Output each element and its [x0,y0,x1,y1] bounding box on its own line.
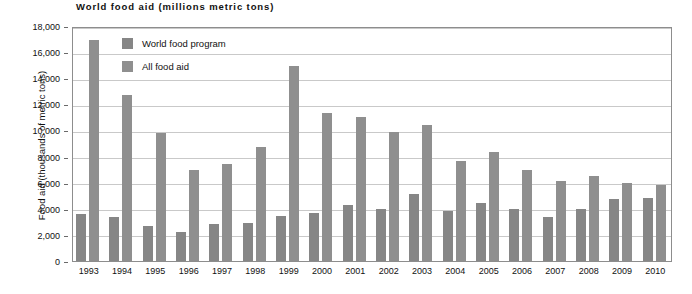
bar [489,152,499,261]
bar-group [640,28,673,261]
y-tick-label: 12,000 [0,100,60,110]
bar-group [573,28,606,261]
y-axis-tick-labels: 02,0004,0006,0008,00010,00012,00014,0001… [0,27,68,262]
bar-group [73,28,106,261]
bar [256,147,266,261]
bar [209,224,219,261]
bar-group [506,28,539,261]
bar [476,203,486,261]
bar [122,95,132,261]
y-tick-label: 4,000 [0,205,60,215]
bar [509,209,519,261]
bar [289,66,299,261]
y-tick-label: 0 [0,257,60,267]
legend-swatch [122,61,133,72]
bar [576,209,586,261]
bar [343,205,353,261]
bar [656,185,666,261]
y-tick-mark [64,158,68,159]
bar [109,217,119,261]
chart-legend: World food programAll food aid [122,34,322,80]
bar [222,164,232,261]
bar-group [606,28,639,261]
y-tick-mark [64,131,68,132]
bar-group [473,28,506,261]
bar [422,125,432,261]
bar [556,181,566,261]
y-tick-label: 18,000 [0,22,60,32]
bar [356,117,366,261]
bar [443,211,453,261]
bar [89,40,99,261]
bar [189,170,199,261]
y-tick-mark [64,210,68,211]
bar [376,209,386,261]
legend-label: World food program [142,38,226,49]
y-tick-mark [64,105,68,106]
bar [143,226,153,261]
bar-group [540,28,573,261]
y-tick-mark [64,27,68,28]
bar [156,133,166,261]
bar [309,213,319,261]
y-tick-label: 2,000 [0,231,60,241]
legend-label: All food aid [142,61,189,72]
bar-group [373,28,406,261]
bar [389,132,399,261]
bar [643,198,653,261]
y-tick-mark [64,184,68,185]
y-tick-mark [64,53,68,54]
bar [243,223,253,261]
y-tick-label: 10,000 [0,126,60,136]
bar-group [440,28,473,261]
bar-group [406,28,439,261]
y-tick-label: 6,000 [0,179,60,189]
bar [276,216,286,261]
bar [543,217,553,261]
y-tick-label: 16,000 [0,48,60,58]
bar [589,176,599,261]
bar [522,170,532,261]
legend-item: World food program [122,34,322,53]
x-tick-label: 2010 [635,266,675,276]
legend-item: All food aid [122,57,322,76]
bar [176,232,186,261]
bar [322,113,332,261]
bar [609,199,619,261]
y-tick-mark [64,262,68,263]
bar [409,194,419,261]
bar [622,183,632,261]
chart-figure: World food aid (millions metric tons) Fo… [0,0,692,294]
y-tick-mark [64,79,68,80]
bar [456,161,466,261]
bar-group [340,28,373,261]
y-tick-label: 14,000 [0,74,60,84]
y-tick-label: 8,000 [0,153,60,163]
legend-swatch [122,38,133,49]
y-tick-mark [64,236,68,237]
bar [76,214,86,261]
chart-title: World food aid (millions metric tons) [76,1,274,12]
